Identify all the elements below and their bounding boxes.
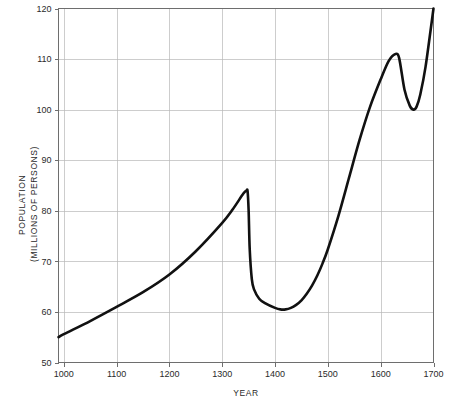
population-chart: 5060708090100110120 10001100120013001400… bbox=[0, 0, 451, 408]
x-tick-label-1500: 1500 bbox=[318, 369, 338, 379]
y-tick-label-60: 60 bbox=[41, 307, 51, 317]
y-axis-title: POPULATION (MILLIONS OF PERSONS) bbox=[17, 146, 39, 262]
x-tick-label-1600: 1600 bbox=[371, 369, 391, 379]
y-tick-label-110: 110 bbox=[37, 54, 51, 64]
x-axis-tick-marks bbox=[65, 363, 435, 367]
y-tick-label-50: 50 bbox=[41, 358, 51, 368]
y-axis-title-line-1: POPULATION bbox=[17, 175, 27, 235]
y-tick-label-100: 100 bbox=[36, 105, 51, 115]
y-axis-title-line-2: (MILLIONS OF PERSONS) bbox=[29, 146, 39, 262]
plot-frame bbox=[59, 9, 434, 363]
x-tick-label-1700: 1700 bbox=[423, 369, 443, 379]
x-tick-label-1400: 1400 bbox=[265, 369, 285, 379]
x-tick-label-1300: 1300 bbox=[212, 369, 232, 379]
y-axis-tick-marks bbox=[55, 10, 59, 364]
population-line-series bbox=[59, 9, 434, 338]
horizontal-gridlines bbox=[59, 60, 434, 313]
x-axis-tick-labels: 10001100120013001400150016001700 bbox=[54, 369, 444, 379]
chart-canvas: 5060708090100110120 10001100120013001400… bbox=[0, 0, 451, 408]
y-tick-label-80: 80 bbox=[41, 206, 51, 216]
y-tick-label-120: 120 bbox=[36, 4, 51, 14]
x-tick-label-1200: 1200 bbox=[159, 369, 179, 379]
y-tick-label-70: 70 bbox=[41, 257, 51, 267]
x-tick-label-1000: 1000 bbox=[54, 369, 74, 379]
y-tick-label-90: 90 bbox=[41, 155, 51, 165]
x-axis-title: YEAR bbox=[233, 388, 259, 398]
x-tick-label-1100: 1100 bbox=[107, 369, 126, 379]
